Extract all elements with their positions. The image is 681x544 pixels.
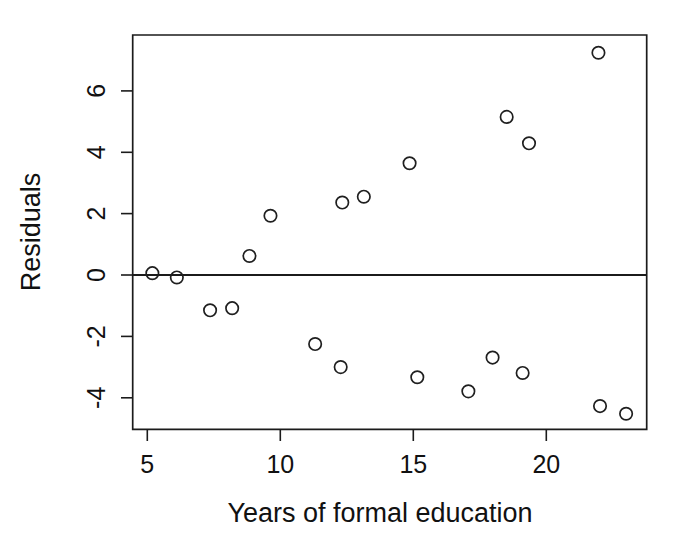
data-point bbox=[358, 191, 370, 203]
data-point bbox=[264, 210, 276, 222]
data-point bbox=[462, 385, 474, 397]
data-point bbox=[411, 371, 423, 383]
y-tick-label-6: 6 bbox=[82, 84, 110, 98]
x-tick-label-10: 10 bbox=[266, 450, 294, 478]
x-tick-label-20: 20 bbox=[532, 450, 560, 478]
data-point bbox=[146, 267, 158, 279]
data-point bbox=[523, 137, 535, 149]
data-point bbox=[226, 302, 238, 314]
data-point bbox=[500, 111, 512, 123]
x-tick-label-15: 15 bbox=[399, 450, 427, 478]
data-point-layer bbox=[146, 47, 632, 420]
scatter-plot: 6 4 2 0 -2 -4 5 10 15 20 Years of formal… bbox=[0, 0, 681, 544]
x-axis-tick-labels: 5 10 15 20 bbox=[140, 450, 560, 478]
y-axis-title: Residuals bbox=[16, 173, 46, 292]
data-point bbox=[243, 250, 255, 262]
plot-frame bbox=[133, 35, 647, 429]
data-point bbox=[486, 351, 498, 363]
data-point bbox=[204, 304, 216, 316]
plot-box-border bbox=[133, 35, 647, 429]
data-point bbox=[594, 400, 606, 412]
figure-canvas: 6 4 2 0 -2 -4 5 10 15 20 Years of formal… bbox=[0, 0, 681, 544]
y-tick-label-4: 4 bbox=[82, 145, 110, 159]
y-tick-label-2: 2 bbox=[82, 207, 110, 221]
x-axis-ticks bbox=[147, 429, 546, 441]
data-point bbox=[336, 196, 348, 208]
x-axis-title: Years of formal education bbox=[227, 498, 532, 528]
y-tick-label-neg4: -4 bbox=[82, 387, 110, 409]
data-point bbox=[620, 408, 632, 420]
y-tick-label-neg2: -2 bbox=[82, 325, 110, 347]
data-point bbox=[309, 338, 321, 350]
x-tick-label-5: 5 bbox=[140, 450, 154, 478]
data-point bbox=[334, 361, 346, 373]
data-point bbox=[403, 157, 415, 169]
y-axis-ticks bbox=[121, 91, 133, 398]
y-axis-tick-labels: 6 4 2 0 -2 -4 bbox=[82, 84, 110, 409]
data-point bbox=[516, 367, 528, 379]
data-point bbox=[592, 47, 604, 59]
y-tick-label-0: 0 bbox=[82, 268, 110, 282]
data-point bbox=[171, 271, 183, 283]
